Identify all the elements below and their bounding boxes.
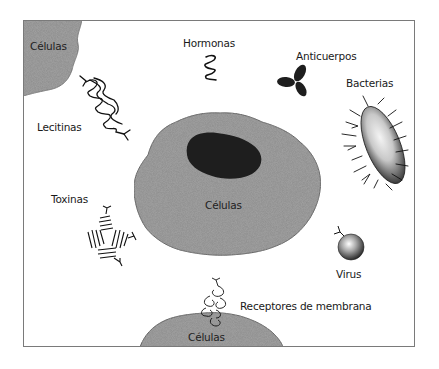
virus-icon [334, 226, 364, 260]
cell-top-left [23, 20, 82, 96]
toxin-icon [88, 206, 136, 266]
hormone-icon [205, 56, 216, 80]
lectin-icon [80, 76, 130, 140]
label-cells-top-left: Células [30, 40, 67, 52]
label-membrane-receptors: Receptores de membrana [240, 300, 372, 312]
label-bacteria: Bacterias [346, 77, 393, 89]
label-cells-center: Células [205, 199, 242, 211]
antibody-icon [277, 63, 309, 98]
label-toxins: Toxinas [51, 193, 88, 205]
diagram-canvas [0, 0, 439, 369]
label-hormones: Hormonas [183, 37, 235, 49]
cell-center [134, 113, 321, 255]
label-virus: Virus [336, 268, 361, 280]
label-lectins: Lecitinas [37, 121, 82, 133]
label-antibodies: Anticuerpos [296, 50, 356, 62]
label-cells-bottom: Células [188, 331, 225, 343]
bacteria-icon [342, 96, 414, 190]
